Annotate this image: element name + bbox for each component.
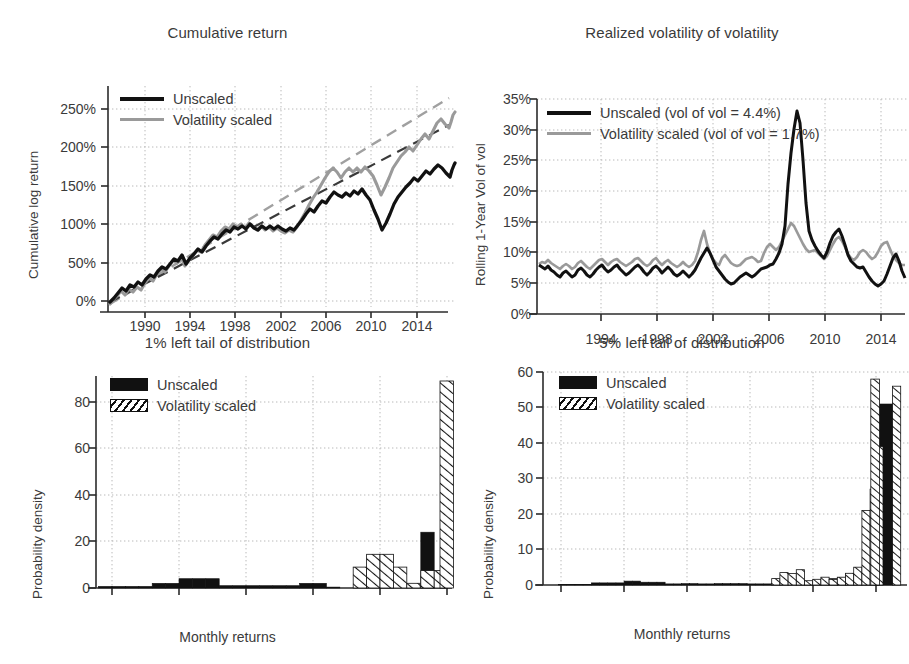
line-swatch-icon xyxy=(547,111,591,115)
line-swatch-icon xyxy=(547,132,591,135)
plot-area-cumulative-return xyxy=(0,24,455,334)
line-swatch-icon xyxy=(120,118,164,121)
panel-tail-1pct: 1% left tail of distribution Probability… xyxy=(0,334,455,664)
panel-cumulative-return: Cumulative return Cumulative log return … xyxy=(0,24,455,334)
hatched-swatch-icon xyxy=(559,397,597,410)
panel-tail-5pct: 5% left tail of distribution Probability… xyxy=(455,334,909,664)
legend-tail-5pct: Unscaled Volatility scaled xyxy=(559,372,705,414)
legend-item-unscaled[interactable]: Unscaled xyxy=(110,374,256,395)
bars-volatility-scaled xyxy=(353,381,453,588)
legend-item-volatility-scaled[interactable]: Volatility scaled (vol of vol = 1.7%) xyxy=(547,123,820,144)
legend-item-volatility-scaled[interactable]: Volatility scaled xyxy=(110,395,256,416)
solid-swatch-icon xyxy=(110,378,148,391)
legend-vol-of-vol: Unscaled (vol of vol = 4.4%) Volatility … xyxy=(547,102,820,144)
hatched-swatch-icon xyxy=(110,399,148,412)
legend-label: Unscaled (vol of vol = 4.4%) xyxy=(600,105,781,121)
plot-area-vol-of-vol xyxy=(455,24,909,334)
trendline-unscaled xyxy=(110,125,449,302)
legend-label: Volatility scaled xyxy=(157,398,256,414)
legend-item-unscaled[interactable]: Unscaled xyxy=(559,372,705,393)
legend-label: Volatility scaled xyxy=(606,396,705,412)
legend-label: Unscaled xyxy=(173,91,233,107)
panel-vol-of-vol: Realized volatility of volatility Rollin… xyxy=(455,24,909,334)
legend-label: Unscaled xyxy=(606,375,666,391)
solid-swatch-icon xyxy=(559,376,597,389)
legend-tail-1pct: Unscaled Volatility scaled xyxy=(110,374,256,416)
legend-item-unscaled[interactable]: Unscaled (vol of vol = 4.4%) xyxy=(547,102,820,123)
bars-unscaled xyxy=(559,404,894,585)
legend-item-volatility-scaled[interactable]: Volatility scaled xyxy=(120,109,272,130)
legend-item-volatility-scaled[interactable]: Volatility scaled xyxy=(559,393,705,414)
line-swatch-icon xyxy=(120,97,164,101)
legend-item-unscaled[interactable]: Unscaled xyxy=(120,88,272,109)
legend-label: Volatility scaled xyxy=(173,112,272,128)
legend-label: Unscaled xyxy=(157,377,217,393)
legend-cumulative-return: Unscaled Volatility scaled xyxy=(120,88,272,130)
legend-label: Volatility scaled (vol of vol = 1.7%) xyxy=(600,126,820,142)
